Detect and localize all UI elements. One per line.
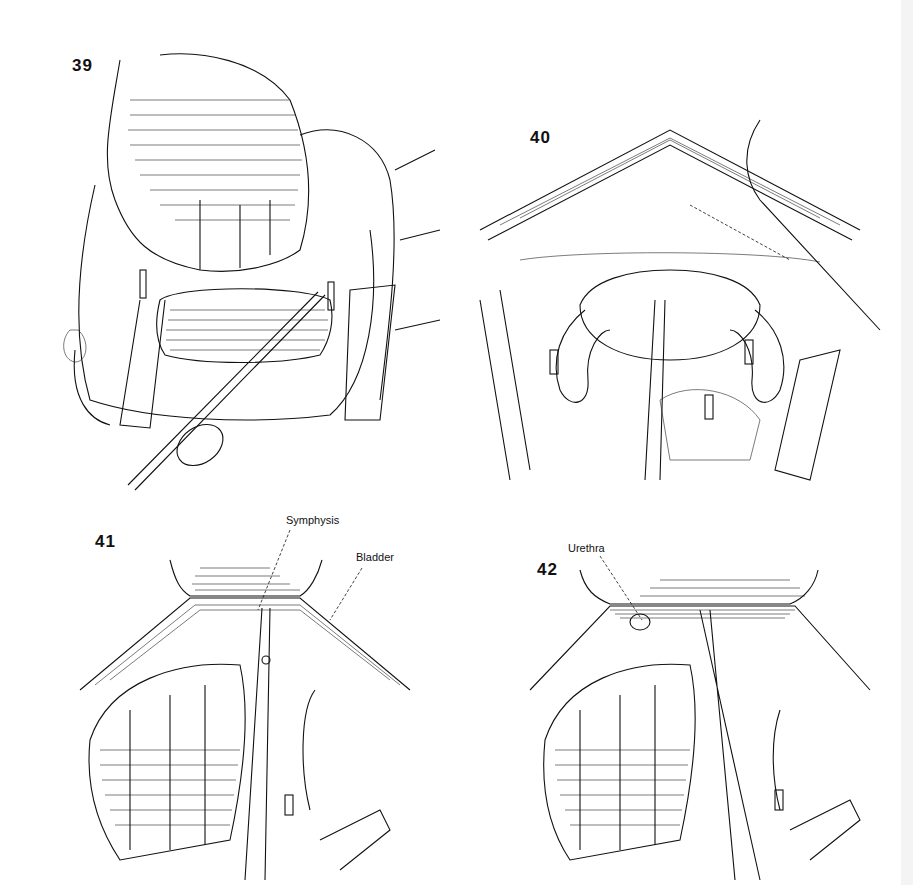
surgical-illustration-symphysis-bladder bbox=[0, 510, 460, 885]
figure-41: 41 Symphysis Bladder bbox=[0, 510, 460, 885]
figure-40: 40 bbox=[460, 0, 900, 510]
surgical-illustration-uterus-exposure bbox=[460, 0, 900, 510]
page-edge bbox=[901, 0, 913, 885]
figure-42: 42 Urethra bbox=[460, 510, 900, 885]
surgical-illustration-urethra bbox=[460, 510, 900, 885]
figure-39: 39 bbox=[0, 0, 460, 510]
surgical-illustration-hand-retractor bbox=[0, 0, 460, 510]
